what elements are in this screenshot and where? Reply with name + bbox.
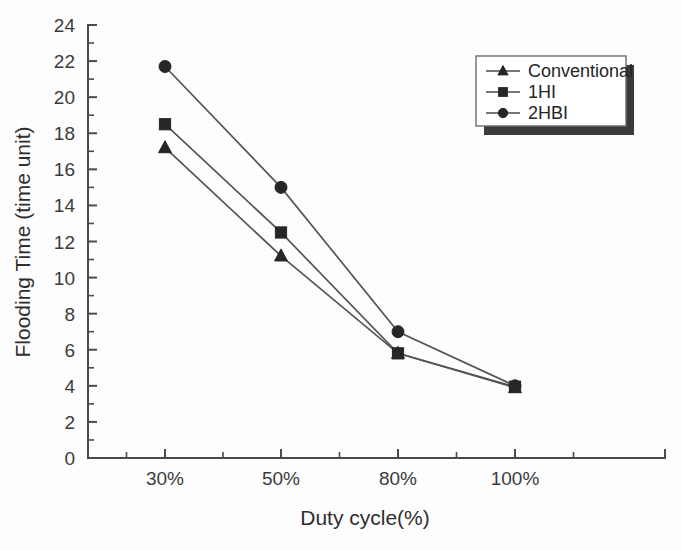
data-point-circle-icon [275, 181, 287, 193]
line-chart: 024681012141618202224 30%50%80%100% Floo… [0, 0, 681, 551]
data-point-circle-icon [392, 326, 404, 338]
y-tick-label: 20 [54, 87, 75, 108]
data-point-circle-icon [509, 380, 521, 392]
data-point-square-icon [159, 119, 170, 130]
y-tick-label: 18 [54, 123, 75, 144]
y-tick-label: 6 [64, 340, 75, 361]
data-point-square-icon [392, 348, 403, 359]
chart-page: 024681012141618202224 30%50%80%100% Floo… [0, 0, 681, 551]
y-tick-label: 14 [54, 195, 76, 216]
x-tick-label: 80% [379, 468, 417, 489]
y-axis: 024681012141618202224 [54, 15, 97, 469]
y-tick-label: 10 [54, 268, 75, 289]
series-plot-area [159, 60, 522, 392]
data-point-circle-icon [498, 108, 507, 117]
x-axis: 30%50%80%100% [88, 449, 665, 489]
y-tick-label: 12 [54, 232, 75, 253]
x-axis-title: Duty cycle(%) [300, 506, 430, 529]
x-tick-label: 50% [262, 468, 300, 489]
x-tick-label: 100% [491, 468, 540, 489]
y-tick-label: 2 [64, 412, 75, 433]
legend-label: 1HI [528, 82, 556, 102]
legend-label: 2HBI [528, 103, 568, 123]
y-tick-label: 16 [54, 159, 75, 180]
data-point-triangle-icon [159, 141, 172, 153]
y-tick-label: 24 [54, 15, 76, 36]
series-1hi [159, 119, 520, 393]
y-tick-label: 8 [64, 304, 75, 325]
legend-label: Conventional [528, 61, 633, 81]
data-point-circle-icon [159, 60, 171, 72]
series-conventional [159, 141, 522, 393]
y-tick-label: 4 [64, 376, 75, 397]
series-line [165, 148, 515, 388]
data-point-square-icon [275, 227, 286, 238]
series-2hbi [159, 60, 521, 391]
y-axis-title: Flooding Time (time unit) [11, 126, 34, 357]
series-line [165, 66, 515, 385]
series-line [165, 124, 515, 387]
y-tick-label: 0 [64, 448, 75, 469]
chart-legend: Conventional1HI2HBI [476, 56, 634, 135]
y-tick-label: 22 [54, 51, 75, 72]
data-point-square-icon [499, 88, 508, 97]
x-tick-label: 30% [146, 468, 184, 489]
